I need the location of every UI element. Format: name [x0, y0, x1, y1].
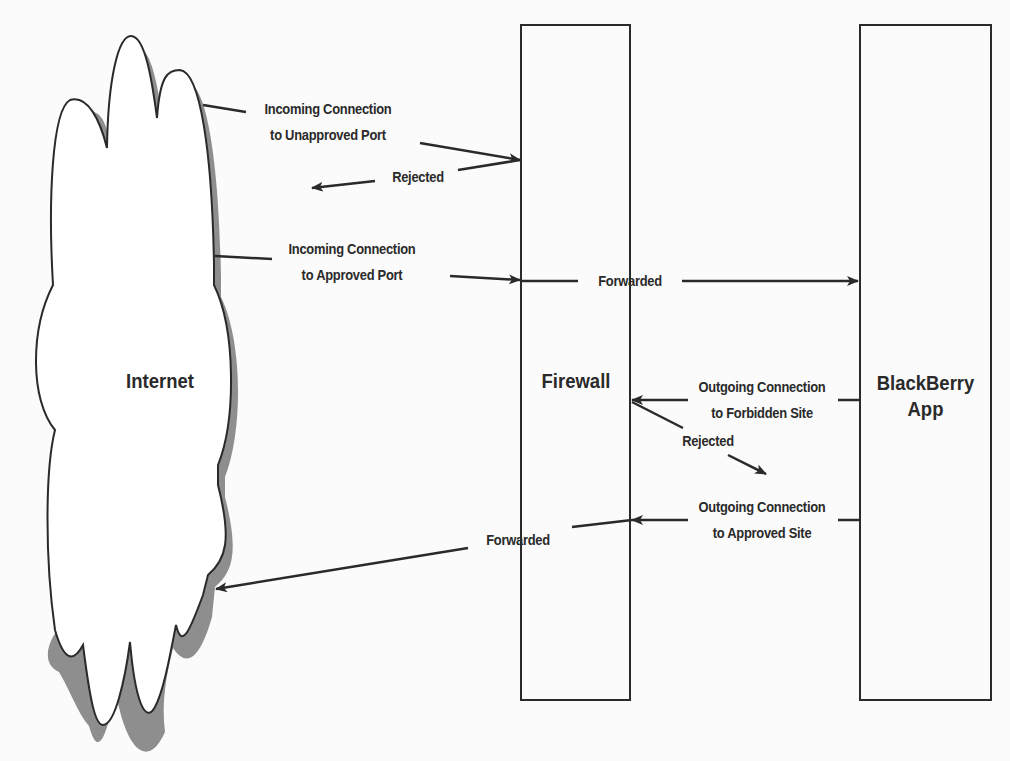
outgoing-approved-line2: to Approved Site: [676, 520, 848, 546]
incoming-unapproved-line1: Incoming Connection: [242, 96, 414, 122]
outgoing-approved-forwarded-label: Forwarded: [475, 527, 561, 553]
incoming-unapproved-line2: to Unapproved Port: [242, 122, 414, 148]
internet-label: Internet: [103, 368, 217, 394]
blackberry-app-label-line1: BlackBerry: [868, 370, 983, 396]
incoming-approved-line1: Incoming Connection: [266, 236, 438, 262]
incoming-unapproved-rejected-label: Rejected: [375, 164, 461, 190]
rejected-label-2: Rejected: [665, 428, 751, 454]
firewall-box: [521, 25, 630, 700]
outgoing-approved-line1: Outgoing Connection: [676, 494, 848, 520]
firewall-label-text: Firewall: [527, 368, 626, 394]
firewall-label: Firewall: [527, 368, 626, 394]
incoming-approved-forwarded-label: Forwarded: [587, 268, 673, 294]
incoming-approved-line2: to Approved Port: [266, 262, 438, 288]
outgoing-forbidden-line1: Outgoing Connection: [676, 374, 848, 400]
incoming-approved-label: Incoming Connection to Approved Port: [266, 236, 438, 288]
blackberry-app-label-line2: App: [868, 396, 983, 422]
forwarded-label-2: Forwarded: [475, 527, 561, 553]
outgoing-approved-label: Outgoing Connection to Approved Site: [676, 494, 848, 546]
outgoing-forbidden-label: Outgoing Connection to Forbidden Site: [676, 374, 848, 426]
blackberry-app-label: BlackBerry App: [868, 370, 983, 422]
outgoing-forbidden-rejected-label: Rejected: [665, 428, 751, 454]
incoming-unapproved-label: Incoming Connection to Unapproved Port: [242, 96, 414, 148]
blackberry-app-box: [860, 25, 991, 700]
internet-label-text: Internet: [103, 368, 217, 394]
rejected-label-1: Rejected: [375, 164, 461, 190]
outgoing-forbidden-line2: to Forbidden Site: [676, 400, 848, 426]
forwarded-label-1: Forwarded: [587, 268, 673, 294]
